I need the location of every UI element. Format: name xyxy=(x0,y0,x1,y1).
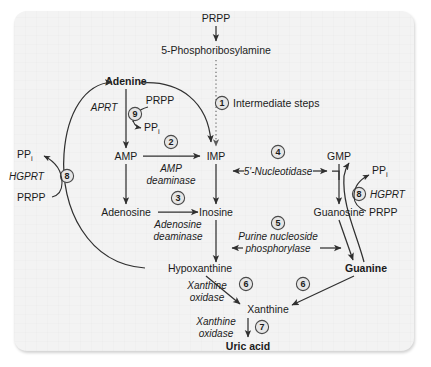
label-ppi-left-group: PP i xyxy=(17,148,33,163)
step-number-6b: 6 xyxy=(300,279,305,289)
label-inosine: Inosine xyxy=(199,206,233,218)
label-hypoxanthine: Hypoxanthine xyxy=(168,262,232,274)
bracket-nucleotidase-gmp xyxy=(332,171,339,180)
label-ppi-aprt-group: PP i xyxy=(144,121,160,136)
label-5-phosphoribosylamine: 5-Phosphoribosylamine xyxy=(161,44,271,56)
label-ppi-aprt-sub: i xyxy=(158,127,160,136)
step-number-8-right: 8 xyxy=(356,189,361,199)
label-adenosine-deaminase-line1: Adenosine xyxy=(153,219,202,230)
label-gmp: GMP xyxy=(327,150,351,162)
figure-root: PRPP 5-Phosphoribosylamine 1 Intermediat… xyxy=(0,0,431,367)
label-ppi-right-group: PP i xyxy=(372,164,388,179)
pathway-diagram: PRPP 5-Phosphoribosylamine 1 Intermediat… xyxy=(0,0,431,367)
label-adenine: Adenine xyxy=(105,75,147,87)
label-ppi-aprt: PP xyxy=(144,121,158,133)
label-prpp-left: PRPP xyxy=(17,191,46,203)
label-pnp-line1: Purine nucleoside xyxy=(238,231,318,242)
label-xanthine-oxidase-a-line2: oxidase xyxy=(190,292,225,303)
step-number-3: 3 xyxy=(175,193,180,203)
step-number-5: 5 xyxy=(275,218,280,228)
label-aprt: APRT xyxy=(90,102,118,113)
label-hgprt-right: HGPRT xyxy=(370,189,406,200)
step-number-4: 4 xyxy=(275,147,280,157)
step-number-7: 7 xyxy=(259,322,264,332)
label-adenosine: Adenosine xyxy=(101,206,151,218)
step-number-9: 9 xyxy=(132,109,137,119)
label-adenosine-deaminase-line2: deaminase xyxy=(154,231,203,242)
label-xanthine: Xanthine xyxy=(247,303,289,315)
label-hgprt-left: HGPRT xyxy=(9,171,45,182)
curve-adenine-to-imp xyxy=(140,83,211,142)
label-xanthine-oxidase-a-line1: Xanthine xyxy=(186,280,227,291)
label-ppi-left: PP xyxy=(17,148,31,160)
step-number-2: 2 xyxy=(168,137,173,147)
label-prpp-right: PRPP xyxy=(369,206,398,218)
step-number-1: 1 xyxy=(219,98,224,108)
label-amp-deaminase-line1: AMP xyxy=(159,163,182,174)
label-guanosine: Guanosine xyxy=(314,206,365,218)
label-5-nucleotidase: 5'-Nucleotidase xyxy=(244,166,313,177)
curve-prpp-left-to-ppi-left xyxy=(44,156,62,197)
label-pnp-line2: phosphorylase xyxy=(244,243,310,254)
label-intermediate-steps: Intermediate steps xyxy=(233,97,319,109)
label-amp-deaminase-line2: deaminase xyxy=(147,175,196,186)
label-xanthine-oxidase-b-line1: Xanthine xyxy=(195,316,236,327)
step-number-8-left: 8 xyxy=(64,171,69,181)
label-ppi-right: PP xyxy=(372,164,386,176)
label-xanthine-oxidase-b-line2: oxidase xyxy=(199,328,234,339)
label-prpp-aprt: PRPP xyxy=(146,94,175,106)
label-amp: AMP xyxy=(115,150,138,162)
label-prpp-top: PRPP xyxy=(202,12,231,24)
arrow-guanosine-to-guanine xyxy=(339,220,353,260)
label-imp: IMP xyxy=(207,150,226,162)
step-number-6a: 6 xyxy=(243,279,248,289)
label-ppi-right-sub: i xyxy=(386,170,388,179)
label-ppi-left-sub: i xyxy=(31,154,33,163)
label-guanine: Guanine xyxy=(345,262,387,274)
label-uric-acid: Uric acid xyxy=(226,340,270,352)
